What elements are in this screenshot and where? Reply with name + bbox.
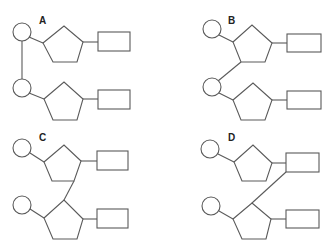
pentagon-icon [44, 82, 83, 120]
circle-pentagon-bond [30, 153, 44, 162]
pentagon-pentagon-linkage [64, 181, 74, 200]
pentagon-icon [233, 83, 272, 120]
panel-a: A [13, 15, 130, 120]
pentagon-icon [234, 145, 272, 181]
pentagon-icon [43, 26, 83, 62]
circle-pentagon-bond [219, 211, 233, 219]
rectangle-icon [287, 34, 321, 52]
circle-pentagon-bond [29, 93, 44, 99]
circle-icon [203, 78, 221, 96]
panel-c: C [13, 132, 128, 239]
pentagon-circle-linkage [218, 62, 241, 81]
circle-icon [13, 23, 31, 41]
rectangle-icon [97, 209, 128, 228]
panel-d: D [201, 132, 319, 239]
pentagon-icon [44, 200, 83, 239]
circle-pentagon-bond [30, 209, 44, 218]
rectangle-icon [97, 151, 128, 170]
circle-pentagon-bond [219, 35, 233, 42]
circle-pentagon-bond [29, 37, 43, 43]
circle-icon [203, 20, 221, 38]
panel-label-b: B [228, 15, 235, 26]
pentagon-icon [44, 145, 81, 181]
rectangle-icon [98, 32, 130, 51]
circle-icon [202, 197, 220, 215]
circle-pentagon-bond [218, 154, 234, 162]
panel-label-a: A [39, 15, 46, 26]
circle-icon [13, 79, 31, 97]
circle-icon [201, 140, 219, 158]
panel-b: B [203, 15, 321, 120]
rectangle-icon [98, 90, 130, 109]
nucleotide-linkage-diagram: A B C [0, 0, 331, 246]
circle-icon [13, 196, 31, 214]
panel-label-d: D [228, 132, 235, 143]
pentagon-icon [233, 25, 272, 62]
rectangle-icon [287, 91, 321, 109]
pentagon-icon [233, 203, 271, 239]
rectangle-icon [286, 210, 319, 228]
circle-icon [13, 139, 31, 157]
panel-label-c: C [39, 132, 46, 143]
circle-pentagon-bond [219, 93, 233, 100]
rectangle-icon [286, 153, 319, 172]
